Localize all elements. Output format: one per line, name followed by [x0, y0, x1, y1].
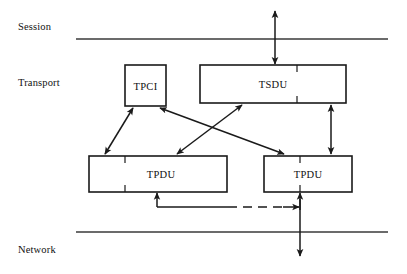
box-label-tpdu-right: TPDU — [294, 169, 323, 180]
connector-tsdu-tpdu-left — [177, 105, 242, 154]
box-tpdu-left: TPDU — [89, 156, 227, 192]
box-tpci: TPCI — [125, 65, 166, 106]
box-label-tpci: TPCI — [134, 81, 158, 92]
box-tsdu: TSDU — [200, 65, 346, 103]
box-tpdu-right: TPDU — [264, 156, 352, 192]
box-label-tpdu-left: TPDU — [147, 169, 176, 180]
connector-tpci-tpdu-left — [105, 108, 133, 154]
connector-tpci-tpdu-right — [160, 108, 284, 154]
diagram-canvas: Session Transport Network TPCI TSD — [0, 0, 407, 274]
box-label-tsdu: TSDU — [259, 79, 288, 90]
diagram-graphics: TPCI TSDU TPDU TPDU — [0, 0, 407, 274]
